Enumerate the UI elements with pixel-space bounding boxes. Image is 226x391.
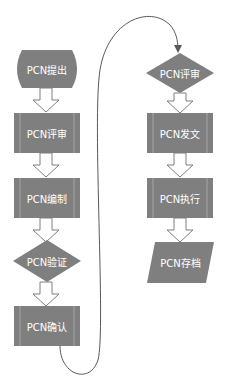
label-pcn-compile: PCN编制: [14, 178, 80, 218]
label-pcn-verify: PCN验证: [13, 240, 81, 282]
label-pcn-review-right: PCN评审: [146, 53, 214, 93]
block-arrow-down: [33, 218, 59, 242]
label-pcn-review-left: PCN评审: [14, 113, 80, 153]
block-arrow-down: [167, 153, 193, 177]
block-arrow-down: [167, 93, 193, 113]
block-arrow-down: [33, 88, 59, 112]
block-arrow-down: [33, 153, 59, 177]
block-arrow-down: [33, 282, 59, 306]
flowchart-canvas: PCN提出 PCN评审 PCN编制 PCN验证 PCN确认 PCN评审 PCN发…: [0, 0, 226, 391]
label-pcn-submit: PCN提出: [14, 50, 80, 88]
label-pcn-execute: PCN执行: [147, 178, 213, 218]
label-pcn-confirm: PCN确认: [14, 306, 80, 346]
label-pcn-archive: PCN存档: [147, 242, 214, 283]
label-pcn-issue: PCN发文: [147, 113, 213, 153]
block-arrow-down: [167, 218, 193, 242]
